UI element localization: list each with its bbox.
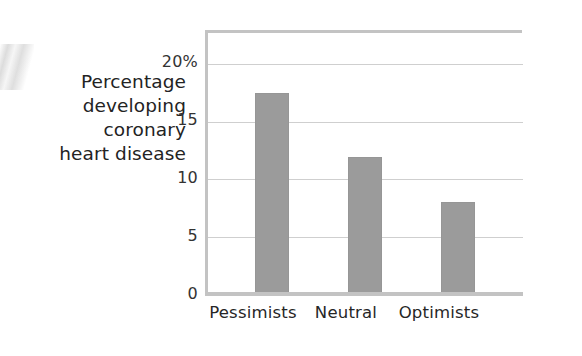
x-axis-baseline	[205, 292, 523, 296]
y-tick-label-10: 10	[136, 170, 198, 186]
y-tick-label-5: 5	[136, 228, 198, 244]
x-tick-label-optimists: Optimists	[384, 304, 494, 322]
bar-chart-figure: Percentage developing coronary heart dis…	[0, 0, 582, 356]
plot-inner	[208, 33, 522, 296]
gridline-20	[208, 64, 523, 65]
y-tick-label-15: 15	[136, 112, 198, 128]
plot-area	[205, 30, 522, 296]
y-axis-title-line-4: heart disease	[14, 142, 186, 166]
y-tick-label-20: 20%	[136, 54, 198, 70]
bar-optimists	[441, 202, 475, 293]
bar-pessimists	[255, 93, 289, 293]
y-tick-label-0: 0	[136, 286, 198, 302]
bar-neutral	[348, 157, 382, 293]
y-axis-title-line-1: Percentage	[14, 70, 186, 94]
